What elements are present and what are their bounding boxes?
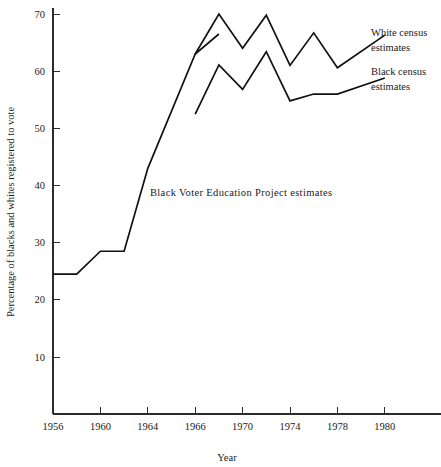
x-tick-label: 1974 [280,421,302,432]
y-axis-title: Percentage of blacks and whites register… [5,107,16,318]
black-census-label-line1: Black census [371,66,426,77]
chart-canvas: 10203040506070 1956196019641966197019741… [0,0,441,467]
y-tick-label: 60 [35,66,46,77]
y-tick-label: 10 [35,352,46,363]
x-axis-ticks [100,407,384,414]
y-axis-tick-labels: 10203040506070 [35,9,46,363]
x-tick-label: 1960 [90,421,111,432]
chart-figure: 10203040506070 1956196019641966197019741… [0,0,441,467]
y-tick-label: 20 [35,294,46,305]
white-census-label-line1: White census [371,27,427,38]
y-tick-label: 70 [35,9,46,20]
y-tick-label: 40 [35,180,46,191]
series-line [53,34,219,274]
x-axis-tick-labels: 19561960196419661970197419781980 [43,421,396,432]
y-axis-ticks [53,14,60,357]
x-axis-title: Year [217,452,237,463]
black-census-label-line2: estimates [371,81,410,92]
x-tick-label: 1978 [327,421,348,432]
x-tick-label: 1970 [232,421,253,432]
y-tick-label: 30 [35,237,46,248]
x-tick-label: 1964 [137,421,159,432]
y-tick-label: 50 [35,123,46,134]
x-tick-label: 1956 [43,421,64,432]
data-series-lines [53,14,385,274]
x-tick-label: 1980 [374,421,395,432]
bvep-annotation-label: Black Voter Education Project estimates [150,187,332,198]
x-tick-label: 1966 [185,421,206,432]
series-line [195,14,385,68]
series-line [195,52,385,114]
white-census-label-line2: estimates [371,42,410,53]
